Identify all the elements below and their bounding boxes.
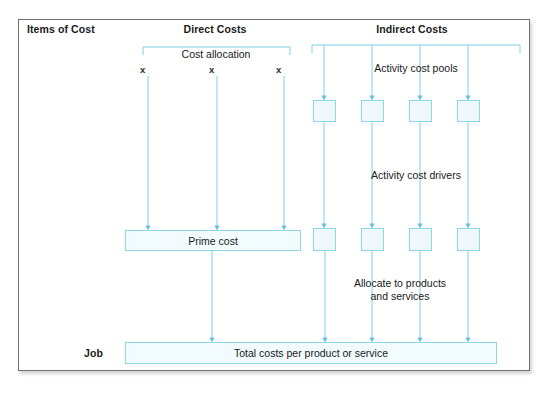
direct-cost-x-marker-1: x — [140, 64, 145, 75]
annotation-allocate-line-1: Allocate to products — [332, 277, 468, 290]
header-indirect-costs: Indirect Costs — [362, 23, 462, 35]
activity-cost-driver-box-4[interactable] — [457, 228, 480, 251]
header-direct-costs: Direct Costs — [165, 23, 265, 35]
activity-cost-driver-box-1[interactable] — [313, 228, 336, 251]
activity-cost-driver-box-2[interactable] — [361, 228, 384, 251]
activity-cost-driver-box-3[interactable] — [409, 228, 432, 251]
direct-cost-x-marker-3: x — [276, 64, 281, 75]
annotation-activity-cost-drivers: Activity cost drivers — [345, 169, 487, 181]
prime-cost-box[interactable]: Prime cost — [125, 230, 301, 251]
header-items-of-cost: Items of Cost — [27, 23, 95, 35]
annotation-activity-cost-pools: Activity cost pools — [346, 62, 486, 74]
total-costs-box[interactable]: Total costs per product or service — [125, 342, 497, 364]
direct-cost-x-marker-2: x — [209, 64, 214, 75]
activity-cost-pool-box-3[interactable] — [409, 100, 432, 122]
annotation-cost-allocation: Cost allocation — [151, 48, 281, 60]
activity-cost-pool-box-1[interactable] — [313, 100, 336, 122]
figure-root: Items of Cost Direct Costs Indirect Cost… — [0, 0, 548, 394]
figure-caption-fragment — [60, 0, 360, 9]
row-label-job: Job — [84, 347, 103, 359]
annotation-allocate-line-2: and services — [332, 290, 468, 303]
activity-cost-pool-box-4[interactable] — [457, 100, 480, 122]
activity-cost-pool-box-2[interactable] — [361, 100, 384, 122]
